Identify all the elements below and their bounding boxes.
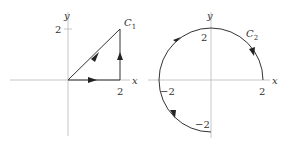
arrow-ccw-1-icon [249,47,255,56]
arrow-ccw-3-icon [170,110,176,118]
y-tick-neg-label: −2 [195,119,210,130]
y-axis-label: y [206,10,213,21]
y-tick-pos-label: 2 [201,32,207,43]
x-tick-neg-label: −2 [160,86,175,97]
y-tick-label: 2 [55,24,61,35]
left-diagram: y x 2 2 C1 [10,10,138,136]
x-tick-label: 2 [117,86,123,97]
curve-label-c2: C2 [246,28,258,42]
x-axis-label: x [132,75,138,86]
y-axis-label: y [63,10,70,21]
arrow-right-icon [88,77,97,83]
x-axis-label: x [272,75,278,86]
right-diagram: y x 2 −2 2 −2 C2 [148,10,278,138]
figure: y x 2 2 C1 y x 2 −2 2 −2 C2 [0,0,292,147]
arrow-up-icon [117,52,123,60]
triangle-path [68,29,120,80]
curve-label-c1: C1 [124,17,136,31]
x-tick-pos-label: 2 [259,86,265,97]
